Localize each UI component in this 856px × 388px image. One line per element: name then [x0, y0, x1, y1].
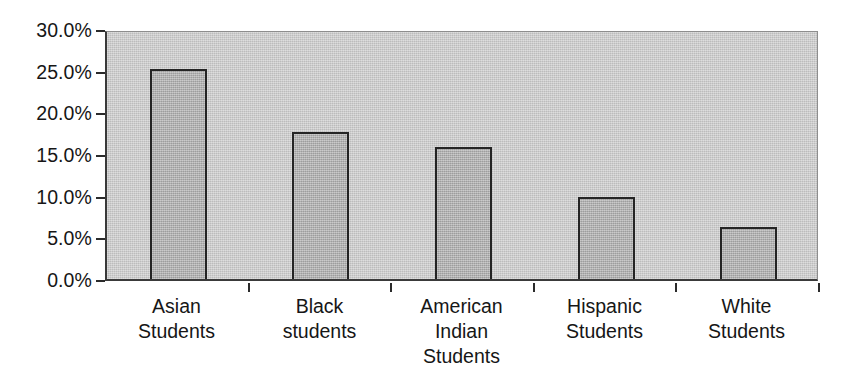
x-category-label-line: Black: [248, 294, 391, 319]
y-tick-label: 5.0%: [0, 229, 92, 249]
x-tick-mark: [390, 283, 392, 292]
y-tick-mark: [96, 30, 105, 32]
y-tick-label: 20.0%: [0, 104, 92, 124]
y-tick-label: 10.0%: [0, 188, 92, 208]
x-category-label-line: Students: [390, 344, 533, 369]
x-axis: AsianStudentsBlackstudentsAmericanIndian…: [105, 294, 818, 388]
y-tick-mark: [96, 280, 105, 282]
x-category-label-line: Students: [533, 319, 676, 344]
y-tick-mark: [96, 155, 105, 157]
bar: [578, 197, 635, 279]
y-tick-label: 25.0%: [0, 63, 92, 83]
y-axis: 0.0%5.0%10.0%15.0%20.0%25.0%30.0%: [0, 0, 92, 388]
y-tick-label: 15.0%: [0, 146, 92, 166]
x-tick-mark: [533, 283, 535, 292]
x-tick-mark: [675, 283, 677, 292]
x-category-label-line: White: [675, 294, 818, 319]
x-category-label: WhiteStudents: [675, 294, 818, 344]
y-tick-mark: [96, 113, 105, 115]
x-category-label-line: Indian: [390, 319, 533, 344]
x-category-label-line: American: [390, 294, 533, 319]
bar: [720, 227, 777, 279]
x-category-label: Blackstudents: [248, 294, 391, 344]
x-category-label: HispanicStudents: [533, 294, 676, 344]
x-axis-ticks: [105, 283, 818, 293]
y-tick-mark: [96, 197, 105, 199]
bar: [292, 132, 349, 279]
x-tick-mark: [818, 283, 820, 292]
x-category-label-line: Students: [675, 319, 818, 344]
x-category-label-line: students: [248, 319, 391, 344]
x-category-label-line: Students: [105, 319, 248, 344]
x-category-label-line: Asian: [105, 294, 248, 319]
bar: [435, 147, 492, 279]
plot-area: [105, 31, 818, 281]
bar: [150, 69, 207, 279]
bar-chart-figure: 0.0%5.0%10.0%15.0%20.0%25.0%30.0% AsianS…: [0, 0, 856, 388]
y-tick-label: 0.0%: [0, 271, 92, 291]
y-tick-mark: [96, 238, 105, 240]
bars-layer: [107, 32, 817, 279]
y-tick-label: 30.0%: [0, 21, 92, 41]
x-category-label: AmericanIndianStudents: [390, 294, 533, 369]
x-category-label: AsianStudents: [105, 294, 248, 344]
x-category-label-line: Hispanic: [533, 294, 676, 319]
y-tick-mark: [96, 72, 105, 74]
x-tick-mark: [248, 283, 250, 292]
